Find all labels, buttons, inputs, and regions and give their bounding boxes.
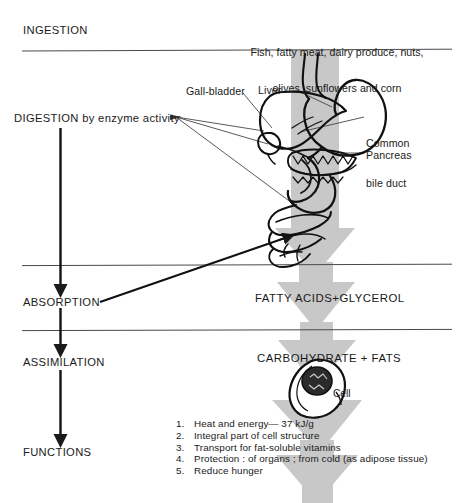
food-sources-line-1: Fish, fatty meat, dairy produce, nuts, — [228, 46, 446, 58]
diagram-canvas: INGESTION DIGESTION by enzyme activity A… — [0, 0, 464, 503]
functions-list: 1. Heat and energy— 37 kJ/g 2. Integral … — [176, 418, 428, 477]
organ-label-gall-bladder: Gall-bladder — [186, 85, 245, 97]
organ-label-liver: Liver — [258, 84, 281, 96]
functions-list-item: 4. Protection : of organs ; from cold (a… — [176, 453, 428, 465]
functions-list-item-number: 2. — [176, 430, 187, 441]
functions-list-item-number: 3. — [176, 442, 187, 453]
product-label-fatty-acids-glycerol: FATTY ACIDS+GLYCEROL — [255, 292, 405, 305]
functions-list-item-text: Reduce hunger — [194, 465, 263, 476]
organ-label-pancreas: Pancreas — [366, 149, 412, 161]
functions-list-item: 2. Integral part of cell structure — [176, 430, 428, 442]
stage-label-absorption: ABSORPTION — [23, 296, 100, 309]
functions-list-item-text: Protection : of organs ; from cold (as a… — [194, 453, 428, 464]
functions-list-item-number: 4. — [176, 453, 187, 464]
functions-list-item-text: Integral part of cell structure — [194, 430, 320, 441]
organ-label-cell: Cell — [333, 388, 351, 400]
food-sources-caption: Fish, fatty meat, dairy produce, nuts, o… — [228, 21, 446, 119]
stage-label-digestion: DIGESTION by enzyme activity — [14, 112, 180, 125]
functions-list-item-number: 1. — [176, 418, 187, 429]
organ-label-common-bile-duct: Common bile duct — [366, 111, 410, 217]
product-label-carbohydrate-fats: CARBOHYDRATE + FATS — [257, 352, 401, 365]
functions-list-item-text: Transport for fat-soluble vitamins — [194, 442, 341, 453]
functions-list-item: 5. Reduce hunger — [176, 465, 428, 477]
common-bile-duct-line-2: bile duct — [366, 177, 410, 190]
functions-list-item-number: 5. — [176, 465, 187, 476]
functions-list-item: 3. Transport for fat-soluble vitamins — [176, 442, 428, 454]
stage-label-ingestion: INGESTION — [23, 24, 88, 37]
stage-label-assimilation: ASSIMILATION — [23, 356, 105, 369]
functions-list-item: 1. Heat and energy— 37 kJ/g — [176, 418, 428, 430]
functions-list-item-text: Heat and energy— 37 kJ/g — [194, 418, 314, 429]
leader-line-icon — [170, 115, 296, 207]
stage-label-functions: FUNCTIONS — [23, 446, 91, 459]
